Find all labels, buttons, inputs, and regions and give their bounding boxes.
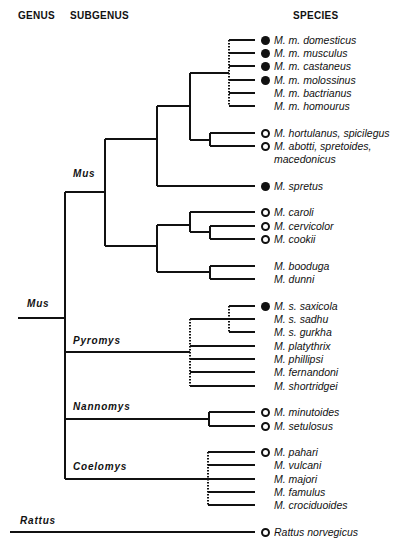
species-label: M. hortulanus, spicilegus bbox=[274, 127, 390, 139]
species-label: M. majori bbox=[274, 473, 317, 485]
open-circle-icon bbox=[261, 448, 270, 457]
open-circle-icon bbox=[261, 528, 270, 537]
species-label: M. booduga bbox=[274, 260, 329, 272]
filled-circle-icon bbox=[261, 62, 270, 71]
species-label: M. m. domesticus bbox=[274, 34, 356, 46]
species-label: M. minutoides bbox=[274, 406, 339, 418]
filled-circle-icon bbox=[261, 182, 270, 191]
species-label: M. abotti, spretoides, bbox=[274, 140, 371, 152]
species-label: M. m. bactrianus bbox=[274, 87, 352, 99]
filled-circle-icon bbox=[261, 302, 270, 311]
species-label: Rattus norvegicus bbox=[274, 526, 358, 538]
species-label: M. famulus bbox=[274, 486, 325, 498]
species-label: M. setulosus bbox=[274, 420, 333, 432]
clade-label-nannomys: Nannomys bbox=[73, 401, 131, 412]
species-label: M. pahari bbox=[274, 446, 318, 458]
species-label: M. caroli bbox=[274, 206, 314, 218]
clade-label-mus-genus: Mus bbox=[27, 298, 49, 309]
species-label: M. vulcani bbox=[274, 459, 321, 471]
species-label: M. crociduoides bbox=[274, 499, 348, 511]
species-label: M. cookii bbox=[274, 233, 315, 245]
clade-label-pyromys: Pyromys bbox=[73, 335, 121, 346]
open-circle-icon bbox=[261, 408, 270, 417]
species-label: M. m. molossinus bbox=[274, 74, 356, 86]
open-circle-icon bbox=[261, 235, 270, 244]
species-label: M. cervicolor bbox=[274, 220, 334, 232]
species-label-continued: macedonicus bbox=[274, 153, 336, 165]
species-label: M. platythrix bbox=[274, 340, 331, 352]
species-label: M. s. saxicola bbox=[274, 300, 338, 312]
open-circle-icon bbox=[261, 129, 270, 138]
species-label: M. shortridgei bbox=[274, 380, 338, 392]
species-label: M. m. musculus bbox=[274, 47, 348, 59]
species-label: M. m. homourus bbox=[274, 100, 350, 112]
species-label: M. dunni bbox=[274, 273, 314, 285]
species-label: M. s. gurkha bbox=[274, 326, 332, 338]
open-circle-icon bbox=[261, 222, 270, 231]
open-circle-icon bbox=[261, 422, 270, 431]
species-label: M. spretus bbox=[274, 180, 323, 192]
filled-circle-icon bbox=[261, 49, 270, 58]
filled-circle-icon bbox=[261, 76, 270, 85]
filled-circle-icon bbox=[261, 36, 270, 45]
species-label: M. m. castaneus bbox=[274, 60, 351, 72]
species-label: M. fernandoni bbox=[274, 366, 338, 378]
open-circle-icon bbox=[261, 142, 270, 151]
clade-label-rattus: Rattus bbox=[20, 515, 56, 526]
clade-label-coelomys: Coelomys bbox=[73, 461, 127, 472]
species-label: M. s. sadhu bbox=[274, 313, 328, 325]
clade-label-mus-subgenus: Mus bbox=[73, 168, 95, 179]
open-circle-icon bbox=[261, 208, 270, 217]
species-label: M. phillipsi bbox=[274, 353, 323, 365]
